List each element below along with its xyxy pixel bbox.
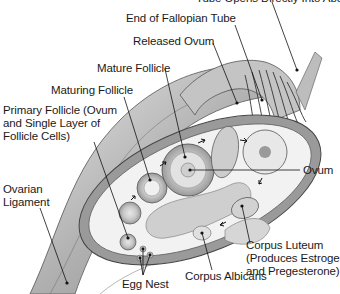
ovarian-ligament-line1: Ovarian [3, 183, 50, 196]
label-end-of-fallopian-tube: End of Fallopian Tube [126, 12, 236, 25]
label-mature-follicle: Mature Follicle [97, 62, 170, 75]
label-released-ovum: Released Ovum [133, 35, 214, 48]
corpus-luteum-line1: Corpus Luteum [246, 239, 340, 252]
primary-follicle-line2: and Single Layer of [3, 117, 117, 130]
corpus-luteum-line2: (Produces Estrogen [246, 252, 340, 265]
label-egg-nest: Egg Nest [122, 278, 169, 291]
label-abdominal-cavity: Tube Opens Directly Into Abdominal Cavit… [196, 0, 340, 5]
maturing-follicle-small [119, 202, 141, 224]
label-ovarian-ligament: Ovarian Ligament [3, 183, 50, 209]
label-ovum: Ovum [303, 164, 333, 177]
primary-follicle-line3: Follicle Cells) [3, 130, 117, 143]
label-corpus-albicans: Corpus Albicans [185, 270, 267, 283]
ovarian-ligament-line2: Ligament [3, 196, 50, 209]
primary-follicle-line1: Primary Follicle (Ovum [3, 104, 117, 117]
primary-follicle [120, 234, 136, 250]
label-primary-follicle: Primary Follicle (Ovum and Single Layer … [3, 104, 117, 143]
label-maturing-follicle: Maturing Follicle [51, 84, 133, 97]
